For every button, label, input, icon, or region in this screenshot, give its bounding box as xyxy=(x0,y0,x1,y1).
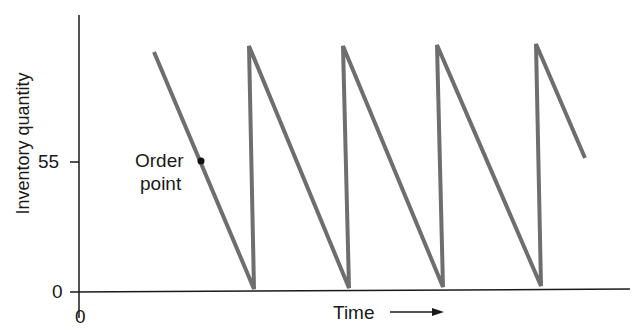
arrow-head-icon xyxy=(432,308,444,316)
order-point-label-line2: point xyxy=(140,173,181,195)
y-tick-label-0: 0 xyxy=(52,281,63,303)
sawtooth-chart xyxy=(0,0,633,330)
x-axis xyxy=(70,289,630,292)
x-tick-label-0: 0 xyxy=(75,306,86,328)
y-tick-label-55: 55 xyxy=(38,151,59,173)
inventory-line xyxy=(154,44,585,289)
x-axis-label: Time xyxy=(333,302,375,324)
order-point-marker xyxy=(198,158,205,165)
y-axis-label: Inventory quantity xyxy=(13,69,34,219)
order-point-label-line1: Order xyxy=(135,150,184,172)
